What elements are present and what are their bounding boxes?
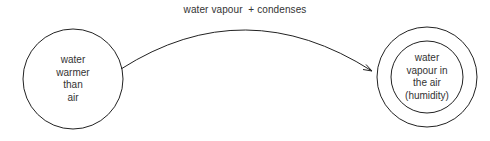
source-node-label: water warmer than air [33, 54, 113, 104]
edge-curve [121, 30, 372, 71]
target-line-2: vapour in [387, 65, 467, 78]
target-node-label: water vapour in the air (humidity) [387, 52, 467, 102]
target-line-3: the air [387, 77, 467, 90]
target-line-1: water [387, 52, 467, 65]
edge-label-part1: water vapour [184, 4, 243, 15]
edge-label-part2: + condenses [248, 4, 306, 15]
source-line-4: air [33, 92, 113, 105]
edge-label: water vapour + condenses [0, 4, 490, 15]
source-line-2: warmer [33, 67, 113, 80]
source-line-1: water [33, 54, 113, 67]
target-line-4: (humidity) [387, 90, 467, 103]
source-line-3: than [33, 79, 113, 92]
